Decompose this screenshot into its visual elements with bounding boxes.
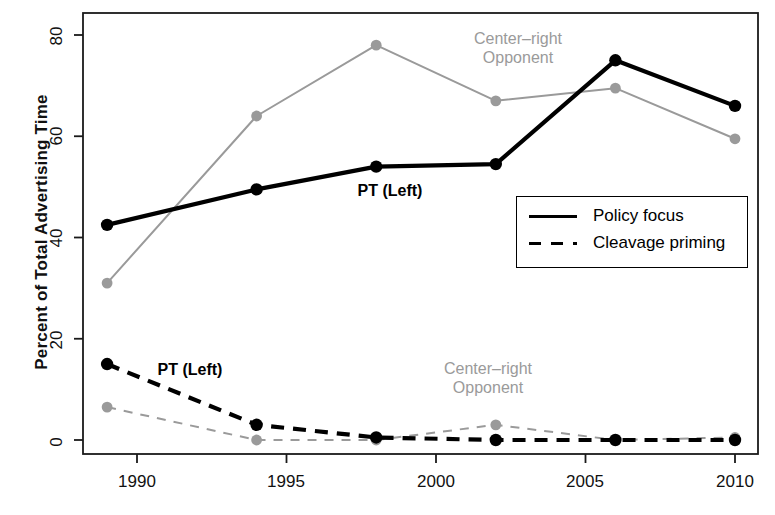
data-point [102,402,113,413]
legend-label-policy-focus: Policy focus [593,206,684,226]
annotation-line-2: Opponent [408,378,568,397]
annotation-line-2: Opponent [438,48,598,67]
annotation-pt-left-policy: PT (Left) [330,181,450,200]
data-point [370,160,382,172]
data-point [250,183,262,195]
data-point [250,419,262,431]
legend-swatch-dashed-line-icon [527,236,579,250]
data-point [101,219,113,231]
chart-figure: Percent of Total Advertising Time 0 20 4… [0,0,775,515]
data-point [102,278,113,289]
annotation-line-1: PT (Left) [130,360,250,379]
legend-label-cleavage-priming: Cleavage priming [593,233,725,253]
data-point [371,40,382,51]
data-point [729,100,741,112]
data-point [490,158,502,170]
legend-entry-policy-focus: Policy focus [527,203,684,229]
data-point [729,434,741,446]
data-point [490,95,501,106]
data-point [609,54,621,66]
data-point [609,434,621,446]
data-point [490,434,502,446]
annotation-line-1: Center–right [408,359,568,378]
data-point [370,431,382,443]
data-point [610,83,621,94]
annotation-center-right-cleavage: Center–right Opponent [408,359,568,397]
annotation-center-right-policy: Center–right Opponent [438,29,598,67]
legend-swatch-solid-line-icon [527,209,579,223]
legend-entry-cleavage-priming: Cleavage priming [527,230,725,256]
annotation-pt-left-cleavage: PT (Left) [130,360,250,379]
data-point [730,133,741,144]
annotation-line-1: PT (Left) [330,181,450,200]
series-line [107,407,735,440]
data-point [101,358,113,370]
data-point [490,419,501,430]
data-point [251,111,262,122]
legend: Policy focus Cleavage priming [516,196,748,268]
data-point [251,435,262,446]
annotation-line-1: Center–right [438,29,598,48]
